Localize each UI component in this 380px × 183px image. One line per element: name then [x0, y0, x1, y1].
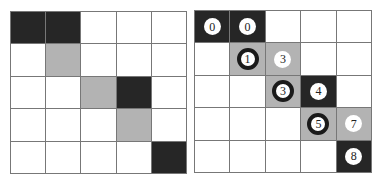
left-cell-r0-c1: [45, 11, 80, 43]
left-cell-r3-c0: [10, 108, 45, 140]
left-cell-r3-c3: [116, 108, 151, 140]
right-cell-r1-c1: 1: [229, 42, 264, 74]
right-cell-r4-c4: 8: [336, 140, 371, 172]
right-cell-r2-c3: 4: [300, 75, 335, 107]
right-cell-r4-c0: [194, 140, 229, 172]
left-cell-r1-c1: [45, 43, 80, 75]
right-cell-r3-c1: [229, 107, 264, 139]
right-cell-r3-c2: [265, 107, 300, 139]
right-cell-r3-c0: [194, 107, 229, 139]
left-cell-r4-c4: [151, 141, 186, 173]
right-cell-r3-c3: 5: [300, 107, 335, 139]
left-cell-r4-c3: [116, 141, 151, 173]
left-cell-r2-c1: [45, 76, 80, 108]
ringed-number-badge: 5: [307, 113, 329, 135]
left-cell-r0-c2: [80, 11, 115, 43]
right-cell-r2-c1: [229, 75, 264, 107]
left-cell-r1-c2: [80, 43, 115, 75]
number-badge: 4: [310, 83, 327, 100]
left-cell-r1-c3: [116, 43, 151, 75]
right-cell-r1-c4: [336, 42, 371, 74]
left-cell-r0-c4: [151, 11, 186, 43]
left-cell-r4-c0: [10, 141, 45, 173]
number-badge: 0: [239, 18, 256, 35]
ringed-number-badge: 1: [237, 48, 259, 70]
left-cell-r1-c4: [151, 43, 186, 75]
ringed-number-badge: 3: [272, 80, 294, 102]
left-cell-r2-c4: [151, 76, 186, 108]
right-cell-r3-c4: 7: [336, 107, 371, 139]
number-badge: 8: [345, 148, 362, 165]
left-cell-r2-c0: [10, 76, 45, 108]
right-cell-r2-c4: [336, 75, 371, 107]
right-cell-r2-c2: 3: [265, 75, 300, 107]
left-cell-r2-c3: [116, 76, 151, 108]
left-cell-r4-c2: [80, 141, 115, 173]
left-cell-r0-c3: [116, 11, 151, 43]
right-cell-r0-c4: [336, 10, 371, 42]
left-cell-r2-c2: [80, 76, 115, 108]
right-cell-r2-c0: [194, 75, 229, 107]
right-cell-r4-c3: [300, 140, 335, 172]
left-grid: [10, 11, 187, 174]
right-grid: 001334578: [194, 10, 372, 173]
right-cell-r4-c1: [229, 140, 264, 172]
number-badge: 7: [345, 115, 362, 132]
right-cell-r1-c0: [194, 42, 229, 74]
right-cell-r0-c2: [265, 10, 300, 42]
right-cell-r0-c3: [300, 10, 335, 42]
right-cell-r1-c3: [300, 42, 335, 74]
right-cell-r0-c0: 0: [194, 10, 229, 42]
left-cell-r3-c2: [80, 108, 115, 140]
left-cell-r3-c1: [45, 108, 80, 140]
right-cell-r4-c2: [265, 140, 300, 172]
left-cell-r1-c0: [10, 43, 45, 75]
number-badge: 3: [274, 51, 291, 68]
left-cell-r3-c4: [151, 108, 186, 140]
right-cell-r1-c2: 3: [265, 42, 300, 74]
left-cell-r4-c1: [45, 141, 80, 173]
right-cell-r0-c1: 0: [229, 10, 264, 42]
number-badge: 0: [204, 18, 221, 35]
left-cell-r0-c0: [10, 11, 45, 43]
